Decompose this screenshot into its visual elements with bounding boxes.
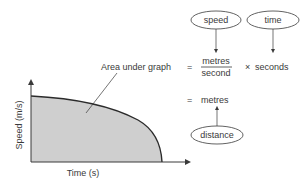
time-annotation: time (264, 15, 281, 25)
equation-equals: = (187, 62, 192, 72)
area-under-graph (31, 96, 162, 162)
equation-lhs: Area under graph (101, 62, 171, 72)
speed-annotation: speed (204, 15, 229, 25)
result-equals: = (187, 95, 192, 105)
fraction-denominator: second (201, 68, 230, 78)
y-axis-label: Speed (m/s) (14, 100, 24, 149)
distance-from-speed-time-graph-diagram: Speed (m/s) Time (s) Area under graph = … (0, 0, 307, 187)
x-axis-label: Time (s) (67, 168, 100, 178)
distance-annotation: distance (200, 130, 234, 140)
fraction-numerator: metres (202, 56, 230, 66)
times-sign: × (245, 62, 250, 72)
result-metres: metres (201, 95, 229, 105)
multiplier-seconds: seconds (255, 62, 289, 72)
